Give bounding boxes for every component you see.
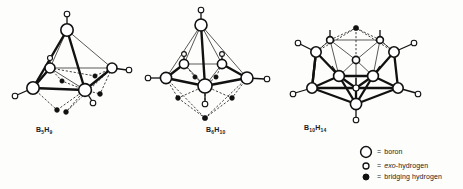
legend-item-bridging-hydrogen: =bridging hydrogen	[377, 173, 442, 180]
structures-canvas	[0, 0, 463, 189]
label-b10h14-sub1: 10	[309, 127, 315, 133]
legend-label-exo-prefix: exo	[384, 162, 396, 169]
legend-bridging-hydrogen-marker-icon	[363, 174, 369, 180]
legend-label-boron: boron	[384, 148, 402, 155]
label-b10h14-sub2: 14	[321, 127, 327, 133]
b5h9-bridging-hydrogens	[55, 74, 103, 115]
legend-equals-exo: =	[377, 162, 381, 169]
b5h9-boron-atoms	[27, 24, 117, 97]
label-b5h9-sub1: 5	[41, 129, 44, 135]
label-b5h9-sub2: 9	[50, 129, 53, 135]
legend-equals-boron: =	[377, 148, 381, 155]
b6h10-boron-atoms	[160, 19, 253, 93]
b5h9-cage-edges	[33, 30, 112, 90]
b10h14-bridge-bonds	[316, 28, 394, 60]
structure-b6h10	[145, 7, 270, 120]
legend-exo-hydrogen-marker-icon	[363, 163, 369, 169]
b6h10-thin-edges	[166, 25, 247, 86]
legend-boron-marker-icon	[361, 147, 372, 158]
legend-label-bridging: bridging hydrogen	[384, 173, 442, 180]
label-b10h14-h: H	[315, 124, 320, 131]
b5h9-thin-edges	[50, 30, 112, 90]
b6h10-cage-edges	[166, 25, 247, 86]
structure-b5h9	[12, 11, 132, 114]
label-b5h9: B5H9	[36, 126, 53, 133]
label-b6h10-h: H	[214, 126, 219, 133]
legend-markers	[361, 147, 372, 180]
label-b6h10-sub1: 6	[211, 129, 214, 135]
label-b6h10-sub2: 10	[220, 129, 226, 135]
structure-b10h14	[290, 25, 421, 122]
legend-item-exo-hydrogen: =exo-hydrogen	[377, 162, 428, 169]
label-b6h10: B6H10	[206, 126, 225, 133]
legend-equals-bridging: =	[377, 173, 381, 180]
label-b10h14: B10H14	[304, 124, 326, 131]
label-b5h9-h: H	[44, 126, 49, 133]
legend-label-exo-rest: -hydrogen	[396, 162, 428, 169]
borane-structures-figure: B5H9 B6H10 B10H14 =boron =exo-hydrogen =…	[0, 0, 463, 189]
legend-item-boron: =boron	[377, 148, 403, 155]
